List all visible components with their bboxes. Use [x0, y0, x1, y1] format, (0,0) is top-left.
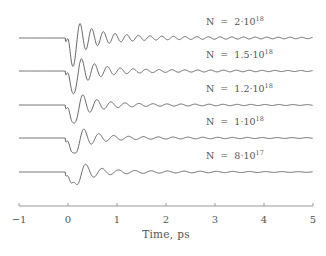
trace-3: [19, 129, 313, 153]
x-axis-title: Time, ps: [142, 228, 190, 240]
x-tick-label: 5: [310, 214, 316, 225]
x-tick-label: 3: [212, 214, 218, 225]
x-tick-label: −1: [12, 214, 27, 225]
trace-2: [19, 95, 313, 123]
series-labels: N = 2·1018N = 1.5·1018N = 1.2·1018N = 1·…: [206, 15, 273, 161]
x-axis: −1012345 Time, ps: [12, 203, 317, 240]
series-label: N = 1.2·1018: [206, 82, 273, 94]
trace-0: [19, 24, 313, 67]
series-label: N = 1.5·1018: [206, 48, 273, 60]
series-label: N = 1·1018: [206, 115, 264, 127]
x-tick-label: 0: [65, 214, 71, 225]
x-tick-label: 4: [261, 214, 267, 225]
chart: N = 2·1018N = 1.5·1018N = 1.2·1018N = 1·…: [0, 0, 326, 256]
x-tick-label: 1: [114, 214, 120, 225]
trace-4: [19, 164, 313, 184]
series-label: N = 8·1017: [206, 149, 264, 161]
x-tick-label: 2: [163, 214, 169, 225]
series-label: N = 2·1018: [206, 15, 264, 27]
